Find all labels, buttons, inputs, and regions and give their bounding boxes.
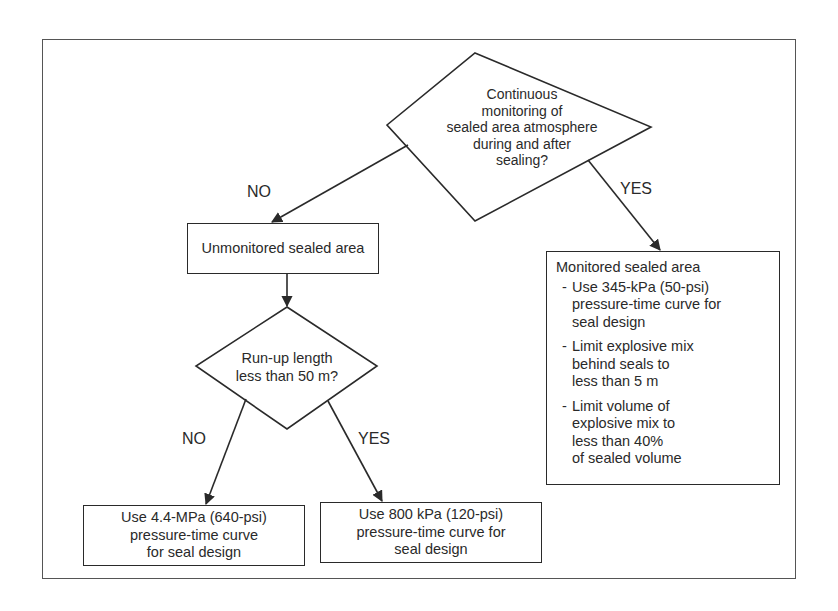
monitored-sealed-area-box: Monitored sealed area - Use 345-kPa (50-… (546, 251, 780, 485)
arrow-main-no (272, 145, 408, 222)
unmonitored-sealed-area-box: Unmonitored sealed area (187, 223, 379, 274)
bullet-dash: - (562, 279, 572, 332)
arrow-main-yes (588, 160, 660, 250)
outcome-yes-box: Use 800 kPa (120-psi) pressure-time curv… (320, 502, 542, 563)
decision-runup-text: Run-up length less than 50 m? (197, 350, 377, 385)
monitored-item-1: - Use 345-kPa (50-psi) pressure-time cur… (562, 279, 779, 332)
decision-main-text: Continuous monitoring of sealed area atm… (392, 86, 652, 169)
branch-label-main-no: NO (247, 183, 271, 201)
outcome-no-box: Use 4.4-MPa (640-psi) pressure-time curv… (83, 505, 305, 566)
monitored-item-3: - Limit volume of explosive mix to less … (562, 398, 779, 468)
arrow-runup-yes (328, 401, 382, 501)
branch-label-runup-yes: YES (358, 430, 390, 448)
monitored-item-2: - Limit explosive mix behind seals to le… (562, 338, 779, 391)
unmonitored-box-text: Unmonitored sealed area (202, 240, 365, 258)
bullet-dash: - (562, 338, 572, 391)
branch-label-runup-no: NO (182, 430, 206, 448)
arrow-runup-no (206, 399, 246, 504)
monitored-box-title: Monitored sealed area (556, 259, 779, 277)
branch-label-main-yes: YES (620, 180, 652, 198)
bullet-dash: - (562, 398, 572, 468)
